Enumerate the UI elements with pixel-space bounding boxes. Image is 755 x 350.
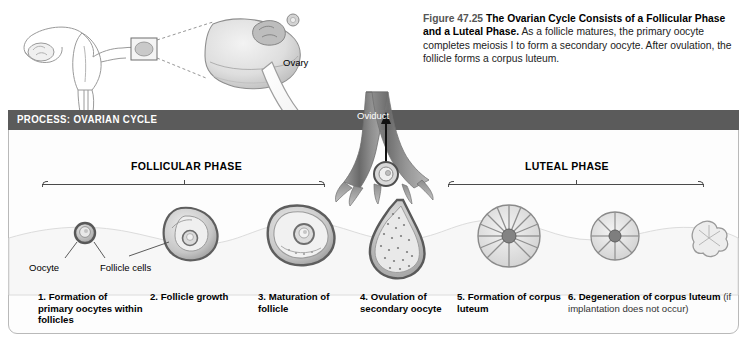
oviduct-label: Oviduct <box>357 110 389 121</box>
step-caption-5: 5. Formation of corpus luteum <box>457 291 562 314</box>
follicle-bulge <box>253 21 286 46</box>
stage-6-corpus-albicans <box>692 221 727 256</box>
stage-4-ruptured-follicle <box>370 200 425 278</box>
step-caption-4: 4. Ovulation of secondary oocyte <box>360 291 455 314</box>
luteal-phase-bracket <box>448 178 704 187</box>
oviduct-illustration <box>330 92 460 207</box>
follicle-stage-illustrations <box>9 198 738 290</box>
figure-number: Figure 47.25 <box>423 13 483 24</box>
step-caption-3: 3. Maturation of follicle <box>258 291 358 314</box>
process-header-label: PROCESS: OVARIAN CYCLE <box>17 113 157 125</box>
follicle-cells-label: Follicle cells <box>100 262 151 273</box>
oocyte-label: Oocyte <box>29 262 59 273</box>
follicular-phase-label: FOLLICULAR PHASE <box>131 160 242 172</box>
step-caption-2: 2. Follicle growth <box>150 291 260 303</box>
stage-2-growing-follicle <box>129 208 218 261</box>
stage-6-regressing-corpus-luteum <box>591 212 639 260</box>
figure-caption: Figure 47.25 The Ovarian Cycle Consists … <box>423 12 741 66</box>
step-caption-1: 1. Formation of primary oocytes within f… <box>38 291 143 326</box>
ovary-magnified <box>205 14 300 89</box>
stage-1-primordial-follicle <box>65 223 105 258</box>
step-caption-6: 6. Degeneration of corpus luteum (if imp… <box>568 291 738 314</box>
figure-ovarian-cycle: Figure 47.25 The Ovarian Cycle Consists … <box>0 0 755 350</box>
follicular-phase-bracket <box>42 178 325 187</box>
ovary-label: Ovary <box>283 57 308 68</box>
stage-3-mature-follicle <box>268 206 335 266</box>
step-caption-6-main: 6. Degeneration of corpus luteum <box>568 291 720 302</box>
luteal-phase-label: LUTEAL PHASE <box>525 160 609 172</box>
magnification-leader-lines <box>157 22 213 78</box>
stage-5-corpus-luteum <box>478 205 540 267</box>
ovulated-oocyte <box>374 162 398 186</box>
